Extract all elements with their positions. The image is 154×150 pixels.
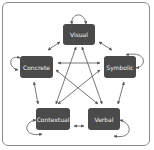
- edge-visual-verbal: [82, 47, 102, 104]
- edge-visual-self: [72, 15, 86, 24]
- node-contextual: Contextual: [36, 108, 70, 130]
- node-visual: Visual: [63, 24, 95, 45]
- edge-visual-symbolic: [99, 42, 112, 50]
- node-verbal-label: Verbal: [95, 116, 114, 123]
- edge-visual-concrete: [48, 42, 60, 50]
- node-contextual-label: Contextual: [37, 116, 70, 123]
- node-verbal: Verbal: [88, 108, 120, 130]
- edge-symbolic-contextual: [58, 70, 100, 104]
- edge-concrete-self: [11, 57, 20, 70]
- edge-symbolic-verbal: [118, 82, 124, 104]
- node-symbolic: Symbolic: [104, 56, 136, 78]
- node-symbolic-label: Symbolic: [106, 64, 133, 71]
- edge-concrete-contextual: [34, 82, 38, 104]
- node-concrete-label: Concrete: [23, 64, 50, 71]
- node-concrete: Concrete: [20, 56, 53, 78]
- edge-visual-contextual: [56, 47, 76, 104]
- node-visual-label: Visual: [70, 31, 88, 38]
